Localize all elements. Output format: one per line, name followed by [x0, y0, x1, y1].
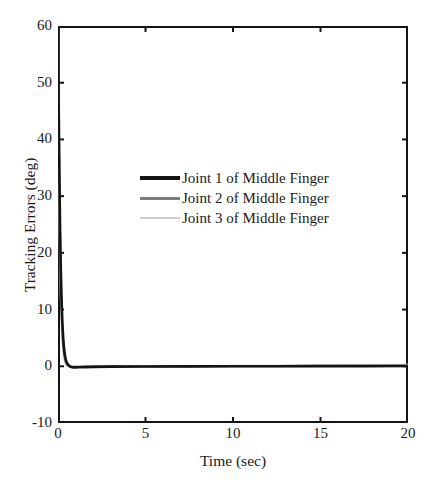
x-tick-label: 10 [226, 426, 241, 441]
y-tick-label: 10 [37, 302, 52, 317]
tracking-errors-figure: -100102030405060 05101520 Time (sec) Tra… [0, 0, 433, 490]
legend-label: Joint 1 of Middle Finger [180, 171, 329, 186]
legend-line-swatch [140, 176, 180, 180]
legend-label: Joint 3 of Middle Finger [180, 211, 329, 226]
y-tick-label: 40 [37, 131, 52, 146]
y-tick-label: 30 [37, 188, 52, 203]
x-tick-label: 15 [313, 426, 328, 441]
x-tick-label: 0 [54, 426, 62, 441]
cut-off-caption-text [28, 481, 32, 486]
legend-line-swatch [140, 197, 180, 200]
y-tick-label: 20 [37, 245, 52, 260]
y-tick-label: 60 [37, 18, 52, 33]
x-axis-title: Time (sec) [58, 452, 408, 470]
legend-entry: Joint 3 of Middle Finger [140, 208, 355, 228]
x-tick-label: 5 [142, 426, 150, 441]
y-tick-label: 0 [45, 358, 53, 373]
legend: Joint 1 of Middle FingerJoint 2 of Middl… [140, 168, 355, 228]
y-tick-label: -10 [32, 415, 52, 430]
x-tick-label: 20 [401, 426, 416, 441]
legend-label: Joint 2 of Middle Finger [180, 191, 329, 206]
legend-entry: Joint 1 of Middle Finger [140, 168, 355, 188]
y-tick-label: 50 [37, 75, 52, 90]
legend-entry: Joint 2 of Middle Finger [140, 188, 355, 208]
cut-off-caption-strip [0, 481, 433, 490]
legend-line-swatch [140, 217, 180, 219]
y-axis-title: Tracking Errors (deg) [21, 125, 39, 325]
